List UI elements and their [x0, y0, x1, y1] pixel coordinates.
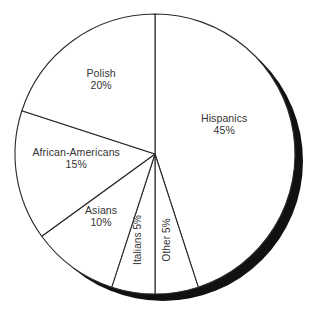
pie-slices: [15, 14, 295, 294]
pie-chart-svg: [0, 0, 313, 313]
pie-chart-figure: · Hispanics45%Other 5%Italians 5%Asians1…: [0, 0, 313, 313]
